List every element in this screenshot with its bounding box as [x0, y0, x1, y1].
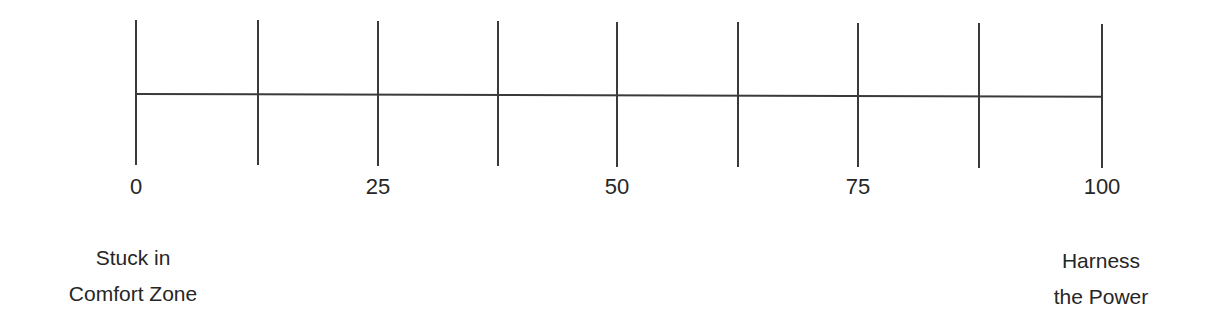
tick-12-5 — [257, 20, 259, 165]
right-anchor-label: Harness the Power — [1001, 243, 1201, 315]
tick-62-5 — [737, 22, 739, 167]
tick-75 — [857, 23, 859, 167]
right-anchor-line2: the Power — [1001, 279, 1201, 315]
tick-87-5 — [978, 23, 980, 168]
tick-label-50: 50 — [577, 174, 657, 200]
comfort-zone-scale: 0 25 50 75 100 Stuck in Comfort Zone Har… — [0, 0, 1216, 331]
tick-label-25: 25 — [338, 174, 418, 200]
tick-label-75: 75 — [818, 174, 898, 200]
tick-label-100: 100 — [1062, 174, 1142, 200]
tick-0 — [135, 20, 137, 165]
left-anchor-line1: Stuck in — [33, 240, 233, 276]
tick-25 — [377, 21, 379, 166]
left-anchor-label: Stuck in Comfort Zone — [33, 240, 233, 312]
tick-50 — [616, 22, 618, 167]
left-anchor-line2: Comfort Zone — [33, 276, 233, 312]
tick-label-0: 0 — [96, 174, 176, 200]
right-anchor-line1: Harness — [1001, 243, 1201, 279]
tick-37-5 — [497, 21, 499, 166]
scale-axis-line — [136, 93, 1102, 98]
tick-100 — [1101, 24, 1103, 168]
